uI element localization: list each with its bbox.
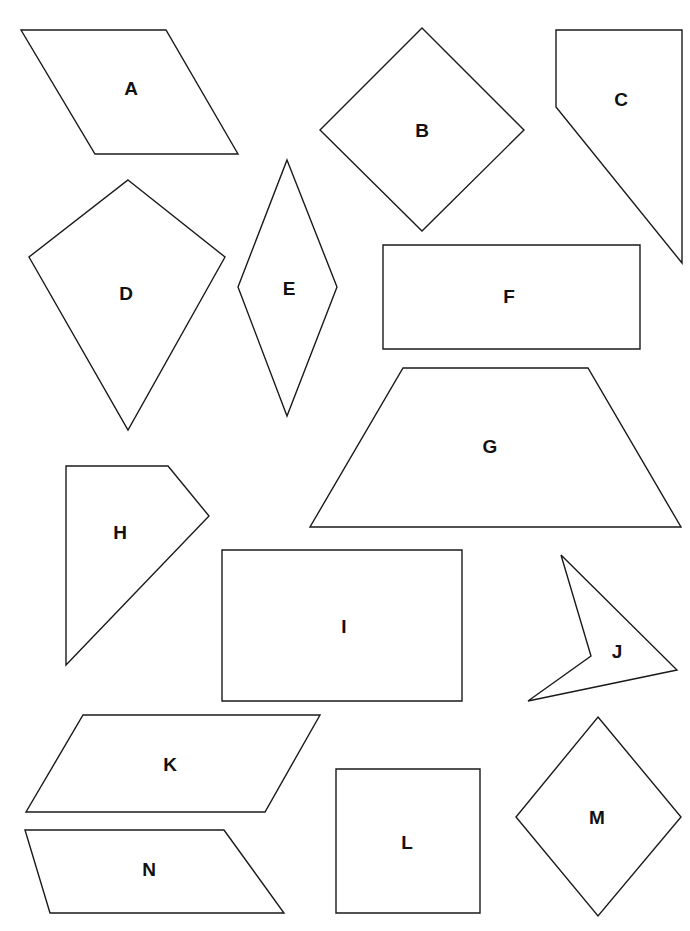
shape-e-label: E [283,278,296,299]
shape-l: L [336,769,480,913]
shape-i-label: I [341,616,346,637]
shape-l-label: L [401,832,413,853]
shape-j: J [528,555,677,701]
shape-h: H [66,466,209,665]
shape-g: G [310,368,681,527]
shapes-figure: A B C D E F G H I J K L M N [0,0,690,931]
shape-c-outline [556,30,682,263]
shape-f: F [383,245,640,349]
shape-i: I [222,550,462,701]
shape-e: E [238,160,337,416]
shape-c-label: C [614,89,628,110]
shape-b-label: B [415,120,429,141]
shape-f-label: F [503,286,515,307]
shape-n: N [25,830,284,913]
shape-j-outline [528,555,677,701]
shape-g-label: G [483,436,498,457]
shape-n-label: N [142,859,156,880]
shape-k-label: K [163,754,177,775]
shape-c: C [556,30,682,263]
shape-b: B [320,28,524,231]
shape-a: A [21,30,238,154]
shape-d-label: D [119,283,133,304]
shape-m: M [516,717,681,916]
shape-m-label: M [589,807,605,828]
shape-k: K [26,715,320,812]
shape-j-label: J [612,641,623,662]
shape-a-label: A [124,78,138,99]
shape-h-label: H [113,522,127,543]
shape-h-outline [66,466,209,665]
shape-d: D [29,180,225,430]
shape-d-outline [29,180,225,430]
